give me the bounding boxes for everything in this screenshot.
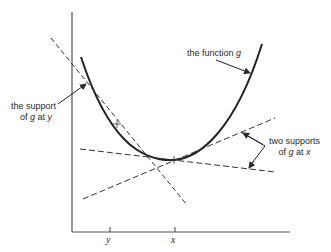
label-line1: the support	[11, 101, 56, 112]
arrow-supports-x-head-bottom	[249, 161, 254, 168]
touch-mark-x	[170, 156, 178, 164]
label-line2: of g at y	[11, 112, 56, 123]
label-support-y: the support of g at y	[11, 101, 56, 123]
support-at-x-steep-line	[83, 118, 275, 199]
label-text: at	[35, 112, 48, 122]
tick-label-x: x	[171, 234, 175, 245]
label-text: at	[294, 147, 307, 157]
arrow-function-g	[216, 60, 250, 73]
label-line2: of g at x	[269, 147, 320, 158]
function-g-curve	[81, 44, 262, 160]
label-var: g	[236, 48, 241, 58]
label-var: x	[306, 147, 311, 157]
label-line1: two supports	[269, 136, 320, 147]
label-text: the function	[187, 48, 236, 58]
label-supports-x: two supports of g at x	[269, 136, 320, 158]
tick-label-y: y	[106, 234, 110, 245]
convex-function-diagram	[0, 0, 331, 252]
label-function-g: the function g	[187, 48, 241, 59]
label-text: of	[20, 112, 30, 122]
arrow-supports-x-head-top	[243, 133, 262, 144]
label-text: of	[278, 147, 288, 157]
label-var: y	[48, 112, 53, 122]
